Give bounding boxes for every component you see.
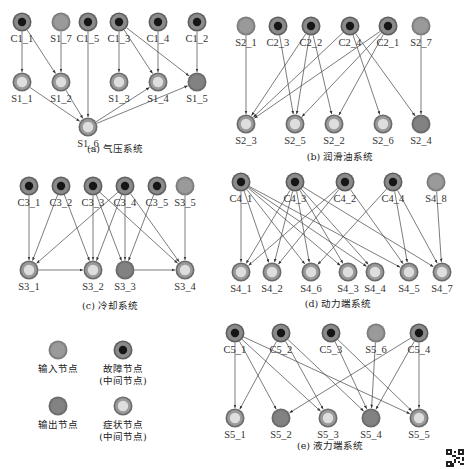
node-core [341,178,349,186]
node-S4_1-symptom [232,263,251,282]
node-C5_4-fault [410,324,429,343]
node-S5_5-symptom [410,409,429,428]
node-S3_1-symptom [20,261,39,280]
node-S3_4-symptom [176,261,195,280]
node-label-C5_1: C5_1 [224,344,247,355]
node-S2_1-input [237,17,256,36]
node-C1_5-fault [79,13,98,32]
node-fill [54,15,68,29]
node-label-S1_3: S1_3 [108,93,130,104]
caption-subgraph-d: (d) 动力端系统 [305,298,372,309]
node-C1_1-fault [13,13,32,32]
node-C5_1-fault [226,324,245,343]
node-core [25,182,33,190]
node-fill [364,411,378,425]
node-label-S4_3: S4_3 [337,283,359,294]
node-label-S2_1: S2_1 [235,37,257,48]
node-core [327,329,335,337]
node-S1_6-symptom [79,118,98,137]
node-fill [51,343,65,357]
node-S1_5-output [188,73,207,92]
node-core [291,178,299,186]
node-label-S4_6: S4_6 [300,283,322,294]
node-core [119,346,127,354]
node-S5_4-output [362,409,381,428]
node-core [193,18,201,26]
node-S4_5-symptom [400,263,419,282]
legend-symptom-node-icon [114,397,133,416]
node-core [114,77,124,87]
node-label-C4_2: C4_2 [334,193,357,204]
node-C4_2-fault [336,173,355,192]
node-S4_4-symptom [366,263,385,282]
node-C2_2-fault [302,17,321,36]
node-core [180,265,190,275]
node-S2_4-output [412,115,431,134]
legend-label-fault: 故障节点 [103,363,143,374]
node-core [121,182,129,190]
node-core [404,267,414,277]
node-S3_5-input [176,177,195,196]
node-S1_2-symptom [52,73,71,92]
node-core [88,265,98,275]
node-C3_5-fault [148,177,167,196]
fault-diagnosis-network-diagram: C1_1S1_7C1_5C1_3C1_4C1_2S1_1S1_2S1_3S1_4… [0,0,465,469]
node-core [414,413,424,423]
node-fill [414,117,428,131]
node-core [56,77,66,87]
node-fill [239,19,253,33]
caption-subgraph-b: (b) 润滑油系统 [307,151,374,162]
node-label-S2_5: S2_5 [284,135,306,146]
qr-code-graphic [446,449,464,467]
node-S4_7-symptom [433,263,452,282]
qr-code-icon [446,449,464,467]
node-S1_7-input [52,13,71,32]
node-C4_4-fault [384,173,403,192]
node-label-S2_3: S2_3 [235,135,257,146]
node-label-C2_4: C2_4 [339,37,363,48]
node-core [307,22,315,30]
node-label-S4_4: S4_4 [364,283,386,294]
node-label-S4_5: S4_5 [398,283,420,294]
node-core [83,122,93,132]
node-label-C1_3: C1_3 [108,33,131,44]
subgraph-d-nodes: C4_1C4_3C4_2C4_4S4_8S4_1S4_2S4_6S4_3S4_4… [230,173,453,294]
caption-subgraph-c: (c) 冷却系统 [82,300,138,311]
node-label-C3_4: C3_4 [114,197,138,208]
edge-S1_6-to-S1_5 [97,86,188,124]
node-S3_3-output [116,261,135,280]
node-core [389,178,397,186]
node-label-C5_3: C5_3 [320,344,343,355]
node-label-C1_5: C1_5 [77,33,100,44]
legend-label-symptom: 症状节点 [103,419,143,430]
edges-layer [22,28,441,414]
node-label-C5_4: C5_4 [408,344,432,355]
node-label-S3_1: S3_1 [18,281,40,292]
node-S5_1-symptom [226,409,245,428]
node-label-S2_2: S2_2 [323,135,345,146]
node-label-S3_5: S3_5 [174,197,196,208]
node-S3_2-symptom [84,261,103,280]
legend-item-fault: 故障节点(中间节点) [99,341,146,386]
node-label-S4_2: S4_2 [261,283,283,294]
node-fill [178,179,192,193]
legend-output-node-icon [49,397,68,416]
node-fill [274,411,288,425]
node-core [329,119,339,129]
node-core [18,18,26,26]
node-C4_1-fault [232,173,251,192]
node-label-S4_8: S4_8 [425,193,447,204]
node-core [84,18,92,26]
node-C1_3-fault [110,13,129,32]
node-label-C4_4: C4_4 [382,193,406,204]
node-S2_2-symptom [325,115,344,134]
node-label-C2_2: C2_2 [300,37,323,48]
node-label-C3_3: C3_3 [82,197,105,208]
node-label-S5_1: S5_1 [224,429,246,440]
node-label-C3_1: C3_1 [18,197,41,208]
node-label-S5_2: S5_2 [270,429,292,440]
node-S5_2-output [272,409,291,428]
node-core [384,22,392,30]
legend-label-fault: (中间节点) [99,375,146,386]
node-label-C3_2: C3_2 [50,197,73,208]
